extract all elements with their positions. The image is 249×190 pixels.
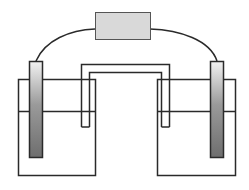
connecting-wire-right	[150, 29, 217, 61]
salt-bridge-outer	[82, 65, 170, 128]
right-electrode	[211, 62, 224, 158]
connecting-wire	[36, 29, 95, 61]
salt-bridge-inner	[90, 73, 162, 128]
left-electrode	[30, 62, 43, 158]
meter-box	[96, 13, 151, 40]
electrochemical-cell-diagram	[0, 0, 249, 190]
